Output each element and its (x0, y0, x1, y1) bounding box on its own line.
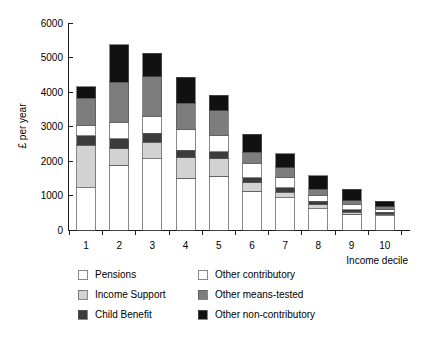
legend-swatch-other-non-contributory (198, 310, 207, 319)
legend-label: Income Support (95, 289, 166, 300)
bar-segment (309, 201, 328, 204)
bar-segment (309, 195, 328, 201)
y-axis-tick-label: 3000 (41, 121, 64, 132)
bar-segment (110, 149, 129, 166)
bar-segment (143, 133, 162, 142)
x-axis-title: Income decile (346, 255, 408, 266)
bar-segment (176, 178, 195, 230)
bar-segment (276, 168, 295, 178)
bar-segment (342, 189, 361, 200)
bar-segment (176, 158, 195, 178)
x-axis-tick-label: 2 (116, 240, 122, 251)
bar-segment (110, 45, 129, 83)
bar-segment (309, 209, 328, 230)
bar-group (110, 45, 129, 230)
y-axis-tick-label: 6000 (41, 18, 64, 29)
legend-label: Other contributory (215, 269, 295, 280)
legend-label: Pensions (95, 269, 136, 280)
bar-segment (276, 188, 295, 192)
bar-group (243, 134, 262, 230)
bar-segment (375, 210, 394, 213)
bar-segment (243, 163, 262, 177)
bar-segment (375, 207, 394, 210)
bar-segment (176, 130, 195, 150)
bar-group (342, 189, 361, 230)
bar-segment (110, 165, 129, 230)
y-axis-tick-label: 5000 (41, 52, 64, 63)
bar-group (77, 87, 96, 230)
bar-segment (342, 201, 361, 205)
legend-label: Other non-contributory (215, 309, 315, 320)
bar-segment (309, 205, 328, 209)
bar-segment (176, 150, 195, 158)
legend-swatch-other-means-tested (198, 290, 207, 299)
legend-swatch-child-benefit (78, 310, 87, 319)
bar-segment (209, 159, 228, 176)
x-axis-tick-label: 9 (349, 240, 355, 251)
x-axis-tick-label: 5 (216, 240, 222, 251)
bar-segment (243, 191, 262, 230)
bar-segment (375, 201, 394, 206)
bar-group (143, 53, 162, 230)
stacked-bar-chart: 0100020003000400050006000£ per year12345… (0, 0, 441, 341)
bar-segment (77, 87, 96, 98)
y-axis-title: £ per year (17, 103, 28, 149)
bar-segment (77, 145, 96, 187)
bar-segment (276, 198, 295, 230)
plot-area: 0100020003000400050006000£ per year12345… (0, 0, 441, 341)
x-axis-tick-label: 8 (316, 240, 322, 251)
x-axis-tick-label: 6 (249, 240, 255, 251)
bar-segment (209, 152, 228, 159)
bar-segment (209, 176, 228, 230)
bar-group (176, 77, 195, 230)
bar-segment (276, 192, 295, 198)
bar-segment (143, 53, 162, 76)
bar-segment (176, 77, 195, 103)
x-axis-tick-label: 10 (379, 240, 391, 251)
bar-segment (309, 176, 328, 189)
bar-group (276, 154, 295, 230)
bar-segment (209, 135, 228, 152)
bar-group (209, 95, 228, 230)
bar-segment (110, 139, 129, 149)
bar-segment (77, 98, 96, 125)
bar-segment (276, 178, 295, 188)
bar-segment (243, 152, 262, 163)
bar-segment (243, 178, 262, 183)
bar-segment (342, 210, 361, 212)
bar-segment (77, 125, 96, 136)
bar-segment (209, 111, 228, 135)
y-axis-tick-label: 2000 (41, 156, 64, 167)
legend-swatch-other-contributory (198, 270, 207, 279)
legend-swatch-income-support (78, 290, 87, 299)
bar-segment (143, 77, 162, 117)
y-axis-tick-label: 0 (57, 225, 63, 236)
bar-segment (110, 122, 129, 139)
x-axis-tick-label: 4 (183, 240, 189, 251)
bar-segment (77, 188, 96, 230)
bar-segment (342, 204, 361, 210)
bar-segment (143, 116, 162, 133)
bar-segment (309, 189, 328, 195)
y-axis-tick-label: 4000 (41, 87, 64, 98)
x-axis-tick-label: 3 (150, 240, 156, 251)
bar-segment (77, 136, 96, 145)
legend-label: Child Benefit (95, 309, 152, 320)
bar-segment (276, 154, 295, 168)
bar-segment (243, 183, 262, 192)
bar-segment (243, 134, 262, 152)
x-axis-tick-label: 7 (282, 240, 288, 251)
bar-segment (375, 216, 394, 230)
legend-label: Other means-tested (215, 289, 303, 300)
legend-swatch-pensions (78, 270, 87, 279)
bar-segment (143, 142, 162, 159)
bar-group (375, 201, 394, 230)
x-axis-tick-label: 1 (83, 240, 89, 251)
y-axis-tick-label: 1000 (41, 190, 64, 201)
bar-group (309, 176, 328, 230)
bar-segment (110, 82, 129, 122)
bar-segment (176, 103, 195, 130)
bar-segment (209, 95, 228, 111)
chart-canvas: 0100020003000400050006000£ per year12345… (0, 0, 441, 341)
bar-segment (342, 214, 361, 230)
